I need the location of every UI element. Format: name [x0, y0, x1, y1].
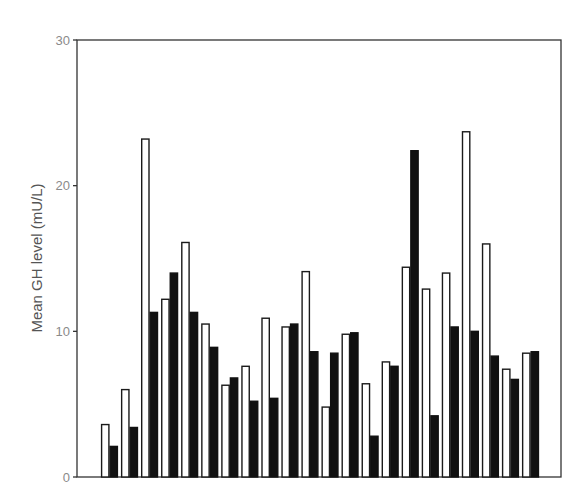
open-bar — [483, 244, 490, 477]
y-axis: 0102030 — [56, 33, 77, 485]
filled-bar — [491, 356, 498, 477]
open-bar — [242, 366, 249, 477]
filled-bar — [311, 352, 318, 477]
open-bar — [523, 353, 530, 477]
filled-bar — [471, 331, 478, 477]
bar-pair — [182, 242, 198, 477]
open-bar — [342, 334, 349, 477]
open-bar — [282, 327, 289, 477]
filled-bar — [271, 398, 278, 477]
filled-bar — [210, 347, 217, 477]
open-bar — [302, 272, 309, 477]
bar-pair — [483, 244, 499, 477]
open-bar — [122, 390, 129, 477]
bar-pair — [282, 324, 298, 477]
filled-bar — [531, 352, 538, 477]
bar-pair — [442, 273, 458, 477]
filled-bar — [451, 327, 458, 477]
bar-pair — [202, 324, 218, 477]
bar-pair — [102, 425, 118, 477]
bar-pair — [162, 273, 178, 477]
y-tick-label: 0 — [63, 470, 70, 485]
filled-bar — [190, 312, 197, 477]
filled-bar — [291, 324, 298, 477]
filled-bar — [150, 312, 157, 477]
bar-pair — [382, 362, 398, 477]
y-tick-label: 20 — [56, 178, 70, 193]
bar-pair — [302, 272, 318, 477]
bar-pair — [122, 390, 138, 477]
open-bar — [162, 299, 169, 477]
bar-pair — [222, 378, 238, 477]
bar-pair — [463, 132, 479, 477]
bar-pair — [402, 151, 418, 477]
open-bar — [262, 318, 269, 477]
open-bar — [402, 267, 409, 477]
bar-chart: 0102030 Mean GH level (mU/L) — [0, 0, 581, 500]
open-bar — [422, 289, 429, 477]
open-bar — [463, 132, 470, 477]
bar-pair — [142, 139, 158, 477]
filled-bar — [351, 333, 358, 477]
open-bar — [182, 242, 189, 477]
filled-bar — [170, 273, 177, 477]
y-axis-title: Mean GH level (mU/L) — [28, 183, 45, 332]
bar-pair — [523, 352, 539, 477]
filled-bar — [230, 378, 237, 477]
filled-bar — [391, 366, 398, 477]
filled-bar — [371, 436, 378, 477]
open-bar — [503, 369, 510, 477]
open-bar — [382, 362, 389, 477]
y-tick-label: 30 — [56, 33, 70, 48]
bar-pair — [262, 318, 278, 477]
bar-pair — [503, 369, 519, 477]
open-bar — [322, 407, 329, 477]
filled-bar — [250, 401, 257, 477]
bar-pair — [422, 289, 438, 477]
bar-pair — [342, 333, 358, 477]
open-bar — [442, 273, 449, 477]
bar-pair — [242, 366, 258, 477]
bar-pair — [362, 384, 378, 477]
open-bar — [222, 385, 229, 477]
filled-bar — [130, 427, 137, 477]
y-tick-label: 10 — [56, 324, 70, 339]
filled-bar — [331, 353, 338, 477]
bar-pair — [322, 353, 338, 477]
filled-bar — [511, 379, 518, 477]
open-bar — [102, 425, 109, 477]
bars-group — [102, 132, 539, 477]
open-bar — [362, 384, 369, 477]
filled-bar — [110, 446, 117, 477]
open-bar — [142, 139, 149, 477]
open-bar — [202, 324, 209, 477]
filled-bar — [411, 151, 418, 477]
filled-bar — [431, 416, 438, 477]
